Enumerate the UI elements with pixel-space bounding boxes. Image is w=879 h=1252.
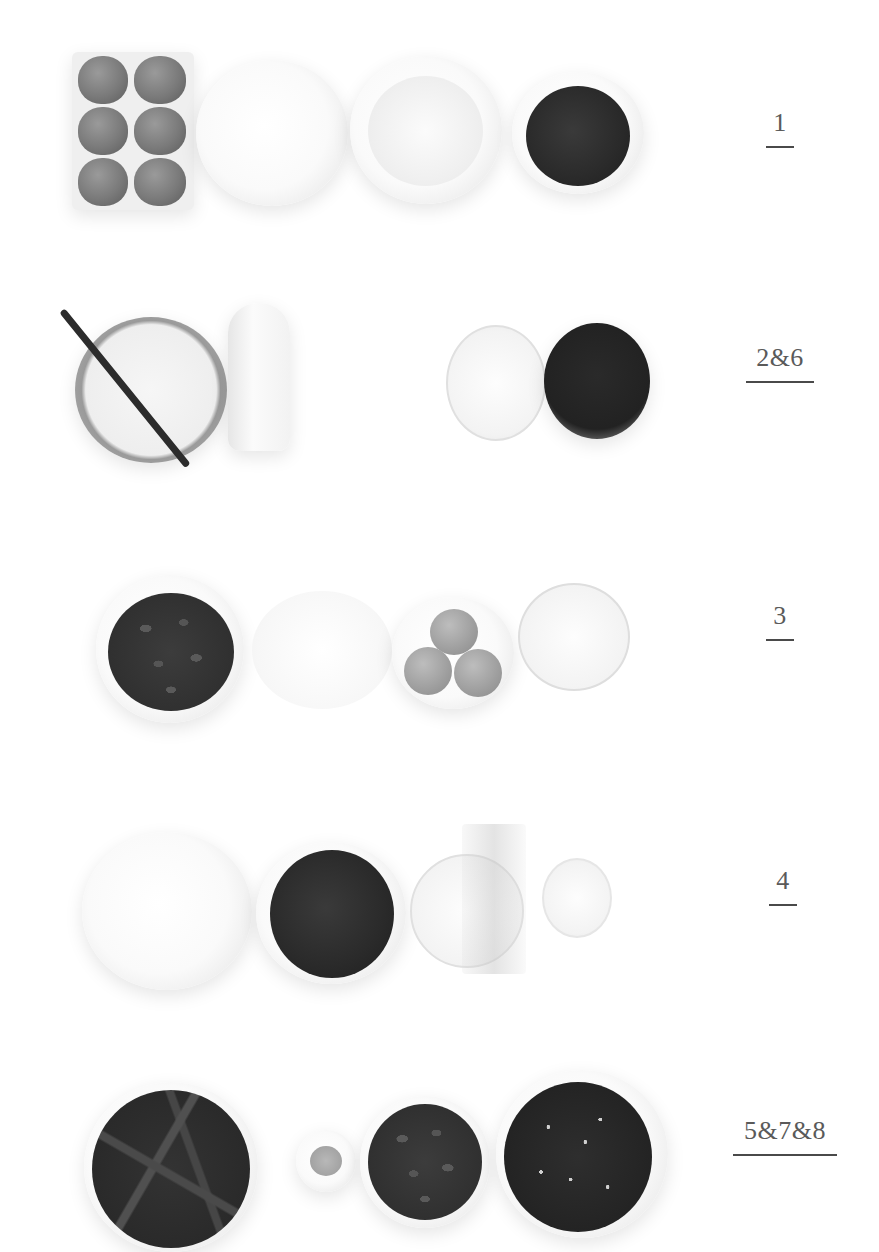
ingredient-row-4: 4 [0,822,879,992]
step-number: 5&7&8 [725,1116,845,1146]
egg-yolk [404,647,452,695]
spice [310,1146,342,1176]
cocoa-beans-bowl-image [496,1070,668,1238]
egg [78,56,128,104]
egg [134,56,186,104]
step-number: 1 [750,108,810,138]
step-number: 3 [755,601,805,631]
ingredient-row-2: 2&6 [0,295,879,470]
sugar-bowl-image [196,60,348,206]
ingredient-row-3: 3 [0,565,879,725]
dark-liquid-glass-image [544,323,650,439]
flour-bowl-image [350,56,502,204]
vanilla-sugar-bowl-image [75,317,227,463]
cocoa-powder [526,86,630,186]
egg-yolk [454,649,502,697]
egg [134,107,186,155]
cocoa-bowl-image [512,72,644,194]
label-underline [766,146,794,148]
step-label-2-6: 2&6 [730,343,830,383]
label-underline [746,381,814,383]
ingredient-row-1: 1 [0,50,879,220]
cocoa-powder [270,850,394,978]
egg [78,107,128,155]
step-label-4: 4 [758,866,808,906]
step-number: 2&6 [730,343,830,373]
cocoa-beans [504,1082,652,1232]
chocolate-pistoles [108,593,234,711]
label-underline [766,639,794,641]
gelatin-sheet [462,824,526,974]
label-underline [733,1154,837,1156]
chocolate-shavings-bowl-image [84,1082,258,1252]
cream-glass-image [542,858,612,938]
milk-bottle-image [228,303,290,451]
egg [134,158,186,206]
egg-yolks-bowl-image [392,597,514,709]
cream-glass-image [518,583,630,691]
egg-carton-image [72,52,194,210]
spice-small-bowl-image [296,1130,356,1192]
cocoa-bowl-image [256,842,406,984]
step-label-3: 3 [755,601,805,641]
chocolate-pistoles-bowl-image [360,1096,490,1228]
egg [78,158,128,206]
chocolate-shavings [92,1090,250,1248]
flour [368,76,483,186]
step-number: 4 [758,866,808,896]
ingredient-row-5: 5&7&8 [0,1060,879,1243]
step-label-5-7-8: 5&7&8 [725,1116,845,1156]
chocolate-pistoles-bowl-image [96,575,244,723]
sugar-bowl-image [82,832,252,990]
water-glass-image [446,325,546,441]
white-bowl-image [252,591,392,709]
chocolate-pistoles [368,1104,482,1220]
step-label-1: 1 [750,108,810,148]
label-underline [769,904,797,906]
